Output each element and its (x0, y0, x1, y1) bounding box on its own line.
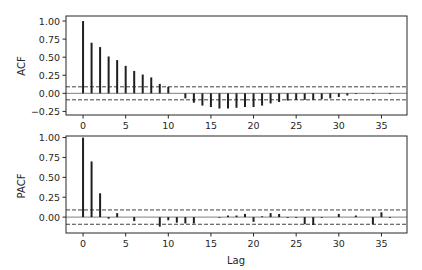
acf-pacf-figure: 1.000.750.500.250.00−0.2505101520253035 … (0, 0, 422, 270)
pacf-panel: 1.000.750.500.250.0005101520253035 (39, 132, 407, 249)
pacf-ytick-label: 1.00 (39, 132, 60, 143)
acf-ytick-label: −0.25 (31, 106, 60, 117)
acf-ytick-label: 1.00 (39, 16, 60, 27)
acf-panel: 1.000.750.500.250.00−0.2505101520253035 (31, 16, 407, 131)
pacf-xtick-label: 25 (290, 238, 302, 249)
x-axis-label: Lag (227, 255, 245, 266)
pacf-xtick-label: 35 (375, 238, 387, 249)
acf-xtick-label: 25 (290, 120, 302, 131)
pacf-stems (83, 138, 390, 227)
acf-xtick-label: 10 (162, 120, 174, 131)
acf-ytick-label: 0.25 (39, 70, 60, 81)
pacf-xtick-label: 5 (123, 238, 129, 249)
acf-xtick-label: 35 (375, 120, 387, 131)
acf-ytick-label: 0.75 (39, 34, 60, 45)
pacf-ytick-label: 0.25 (39, 192, 60, 203)
pacf-axes-frame (66, 136, 407, 233)
pacf-xtick-label: 10 (162, 238, 174, 249)
pacf-xtick-label: 20 (248, 238, 260, 249)
acf-y-axis-label: ACF (16, 56, 27, 76)
pacf-xtick-label: 30 (333, 238, 345, 249)
pacf-ytick-label: 0.00 (39, 212, 60, 223)
pacf-xtick-label: 0 (80, 238, 86, 249)
acf-stems (83, 21, 390, 108)
acf-xtick-label: 30 (333, 120, 345, 131)
acf-ytick-label: 0.50 (39, 52, 60, 63)
pacf-y-axis-label: PACF (16, 173, 27, 198)
pacf-xtick-label: 15 (205, 238, 217, 249)
acf-xtick-label: 15 (205, 120, 217, 131)
acf-xtick-label: 0 (80, 120, 86, 131)
acf-ytick-label: 0.00 (39, 88, 60, 99)
acf-xtick-label: 20 (248, 120, 260, 131)
acf-xtick-label: 5 (123, 120, 129, 131)
pacf-ytick-label: 0.75 (39, 152, 60, 163)
pacf-ytick-label: 0.50 (39, 172, 60, 183)
